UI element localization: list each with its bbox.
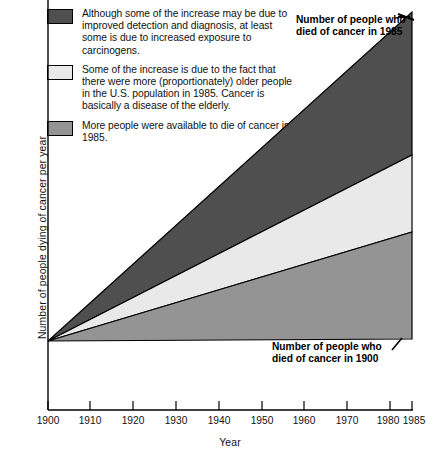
annotation-1900: Number of people who died of cancer in 1… [272, 341, 382, 366]
x-tick-label: 1985 [403, 415, 426, 426]
x-tick-label: 1980 [377, 415, 400, 426]
x-tick-label: 1910 [79, 415, 102, 426]
x-axis-ticks [48, 401, 412, 410]
plot-area: 1900 1910 1920 1930 1940 1950 1960 1970 … [0, 0, 438, 462]
x-tick-label: 1930 [165, 415, 188, 426]
x-axis-title: Year [47, 437, 413, 448]
x-tick-label: 1900 [37, 415, 60, 426]
x-tick-label: 1940 [208, 415, 231, 426]
x-tick-label: 1950 [251, 415, 274, 426]
cancer-deaths-area-chart: Although some of the increase may be due… [0, 0, 438, 462]
annotation-1985: Number of people who died of cancer in 1… [296, 14, 406, 39]
x-tick-label: 1960 [293, 415, 316, 426]
x-tick-label: 1970 [336, 415, 359, 426]
y-axis-title: Number of people dying of cancer per yea… [37, 108, 48, 368]
leader-line-1900 [392, 338, 402, 350]
x-tick-label: 1920 [122, 415, 145, 426]
x-axis-tick-labels: 1900 1910 1920 1930 1940 1950 1960 1970 … [37, 415, 426, 426]
